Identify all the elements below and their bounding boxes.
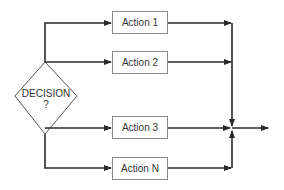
- decision-question-mark: ?: [15, 99, 77, 110]
- action-box-2: Action 2: [112, 51, 168, 74]
- decision-text: DECISION: [15, 88, 77, 99]
- decision-label: DECISION ?: [15, 88, 77, 110]
- action-box-3: Action 3: [112, 116, 168, 139]
- action-label: Action N: [121, 163, 159, 174]
- branch-line-bottom: [45, 134, 111, 168]
- action-label: Action 1: [122, 17, 158, 28]
- action-label: Action 3: [122, 122, 158, 133]
- branch-line-top: [45, 23, 111, 62]
- action-box-n: Action N: [112, 157, 168, 180]
- action-box-1: Action 1: [112, 11, 168, 34]
- action-label: Action 2: [122, 57, 158, 68]
